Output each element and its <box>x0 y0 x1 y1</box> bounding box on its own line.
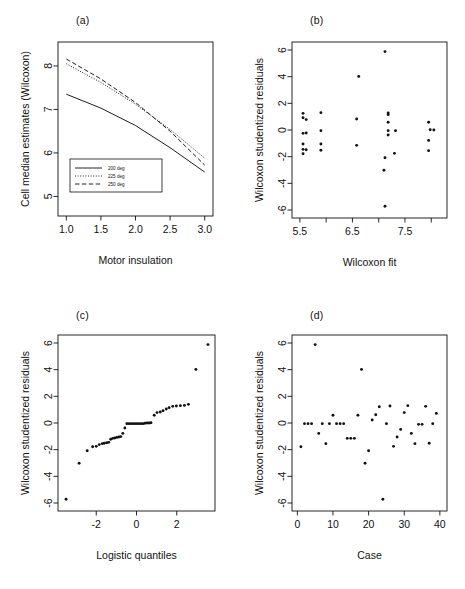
data-point <box>159 411 162 414</box>
data-point <box>374 413 377 416</box>
data-point <box>392 445 395 448</box>
x-tick-label: 6.5 <box>345 225 360 237</box>
panel-a-plot: 1.01.52.02.53.05678Motor insulationCell … <box>0 0 232 295</box>
data-point <box>389 404 392 407</box>
data-point <box>302 152 305 155</box>
data-point <box>183 404 186 407</box>
series-line <box>66 64 204 158</box>
y-tick-label: 5 <box>42 193 54 199</box>
x-tick-label: 1.5 <box>94 223 109 235</box>
y-tick-label: -2 <box>276 445 288 454</box>
data-point <box>319 143 322 146</box>
panel-c: (c) -202-6-4-20246Logistic quantilesWilc… <box>0 295 232 589</box>
panel-c-plot: -202-6-4-20246Logistic quantilesWilcoxon… <box>0 295 232 589</box>
data-point <box>168 406 171 409</box>
data-point <box>165 408 168 411</box>
data-point <box>410 432 413 435</box>
data-point <box>383 169 386 172</box>
data-point <box>332 414 335 417</box>
y-tick-label: 8 <box>42 63 54 69</box>
data-point <box>431 422 434 425</box>
data-point <box>394 129 397 132</box>
x-tick-label: 1.0 <box>59 223 74 235</box>
data-point <box>78 462 81 465</box>
data-point <box>346 437 349 440</box>
data-point <box>95 445 98 448</box>
data-point <box>342 422 345 425</box>
data-point <box>302 116 305 119</box>
y-tick-label: 0 <box>276 420 288 426</box>
data-point <box>387 129 390 132</box>
x-tick-label: 5.5 <box>293 225 308 237</box>
y-tick-label: 6 <box>42 150 54 156</box>
y-axis-label: Wilcoxon studentized residuals <box>253 58 265 202</box>
data-point <box>371 419 374 422</box>
y-tick-label: 4 <box>276 367 288 373</box>
data-point <box>150 421 153 424</box>
x-axis-label: Motor insulation <box>98 254 172 266</box>
data-point <box>432 129 435 132</box>
data-point <box>302 112 305 115</box>
data-point <box>384 50 387 53</box>
data-point <box>305 118 308 121</box>
x-tick-label: 7.5 <box>398 225 413 237</box>
data-point <box>396 436 399 439</box>
data-point <box>86 449 89 452</box>
data-point <box>357 75 360 78</box>
plot-frame <box>292 335 447 511</box>
data-point <box>91 445 94 448</box>
data-point <box>319 149 322 152</box>
data-point <box>314 343 317 346</box>
data-point <box>429 128 432 131</box>
data-point <box>384 156 387 159</box>
x-axis-label: Logistic quantiles <box>96 549 177 561</box>
y-tick-label: -2 <box>42 445 54 454</box>
data-point <box>321 422 324 425</box>
data-point <box>121 432 124 435</box>
y-tick-label: 6 <box>276 340 288 346</box>
legend-label: 225 deg <box>108 174 125 179</box>
x-tick-label: 0 <box>294 518 300 530</box>
panel-b: (b) 5.56.57.5-6-4-20246Wilcoxon fitWilco… <box>232 0 465 295</box>
y-tick-label: 2 <box>276 393 288 399</box>
y-tick-label: 6 <box>276 47 288 53</box>
y-tick-label: -4 <box>276 179 288 188</box>
data-point <box>194 368 197 371</box>
data-point <box>417 423 420 426</box>
data-point <box>307 422 310 425</box>
y-tick-label: -2 <box>276 152 288 161</box>
data-point <box>387 134 390 137</box>
data-point <box>349 437 352 440</box>
data-point <box>385 422 388 425</box>
data-point <box>302 143 305 146</box>
data-point <box>153 414 156 417</box>
y-axis-label: Wilcoxon studentized residuals <box>19 351 31 495</box>
x-tick-label: 20 <box>363 518 375 530</box>
data-point <box>406 404 409 407</box>
x-tick-label: 10 <box>327 518 339 530</box>
plot-frame <box>292 42 447 218</box>
data-point <box>421 423 424 426</box>
data-point <box>335 422 338 425</box>
data-point <box>305 131 308 134</box>
y-tick-label: 7 <box>42 106 54 112</box>
x-tick-label: 30 <box>398 518 410 530</box>
data-point <box>399 428 402 431</box>
figure-wilcoxon-diagnostics: (a) 1.01.52.02.53.05678Motor insulationC… <box>0 0 465 589</box>
x-axis-label: Wilcoxon fit <box>343 256 397 268</box>
y-tick-label: 2 <box>276 100 288 106</box>
x-tick-label: 0 <box>134 518 140 530</box>
data-point <box>424 405 427 408</box>
data-point <box>310 422 313 425</box>
y-axis-label: Wilcoxon studentized residuals <box>253 351 265 495</box>
data-point <box>119 435 122 438</box>
data-point <box>427 139 430 142</box>
y-axis-label: Cell median estimates (Wilcoxon) <box>19 51 31 207</box>
data-point <box>360 368 363 371</box>
data-point <box>305 148 308 151</box>
data-point <box>98 443 101 446</box>
y-tick-label: -6 <box>42 498 54 507</box>
data-point <box>356 414 359 417</box>
data-point <box>207 343 210 346</box>
data-point <box>384 205 387 208</box>
